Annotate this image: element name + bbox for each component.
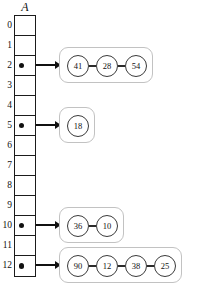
- array-index-label-2: 2: [0, 60, 12, 70]
- array-index-label-4: 4: [0, 100, 12, 110]
- arrow-shaft: [36, 264, 55, 266]
- chain-node[interactable]: 36: [67, 215, 89, 237]
- array-index-label-8: 8: [0, 180, 12, 190]
- array-index-label-0: 0: [0, 20, 12, 30]
- pointer-dot-2: [19, 63, 24, 68]
- arrow-shaft: [36, 124, 55, 126]
- array-cell-9[interactable]: [15, 196, 35, 216]
- array-index-label-1: 1: [0, 40, 12, 50]
- chain-node[interactable]: 12: [96, 255, 118, 277]
- chain-node[interactable]: 54: [125, 55, 147, 77]
- arrow-shaft: [36, 64, 55, 66]
- array-cell-8[interactable]: [15, 176, 35, 196]
- array-cell-6[interactable]: [15, 136, 35, 156]
- chain-node[interactable]: 25: [154, 255, 176, 277]
- array-column: [14, 15, 36, 277]
- array-index-label-5: 5: [0, 120, 12, 130]
- array-cell-1[interactable]: [15, 36, 35, 56]
- chain-node[interactable]: 10: [96, 215, 118, 237]
- chain-container-slot-2: 412854: [59, 47, 153, 83]
- chain-node[interactable]: 18: [67, 115, 89, 137]
- chain-link: [147, 265, 154, 267]
- array-cell-2[interactable]: [15, 56, 35, 76]
- array-cell-0[interactable]: [15, 16, 35, 36]
- pointer-arrow-12: [36, 261, 61, 269]
- array-cell-5[interactable]: [15, 116, 35, 136]
- array-cell-10[interactable]: [15, 216, 35, 236]
- pointer-arrow-2: [36, 61, 61, 69]
- chain-node[interactable]: 41: [67, 55, 89, 77]
- chain-container-slot-12: 90123825: [59, 247, 182, 283]
- array-index-label-12: 12: [0, 260, 12, 270]
- array-cell-7[interactable]: [15, 156, 35, 176]
- chain-container-slot-10: 3610: [59, 207, 124, 243]
- pointer-arrow-5: [36, 121, 61, 129]
- chain-link: [118, 65, 125, 67]
- chain-node[interactable]: 28: [96, 55, 118, 77]
- array-index-label-6: 6: [0, 140, 12, 150]
- array-index-label-7: 7: [0, 160, 12, 170]
- array-cell-3[interactable]: [15, 76, 35, 96]
- chain-node[interactable]: 90: [67, 255, 89, 277]
- chain-node[interactable]: 38: [125, 255, 147, 277]
- array-index-label-9: 9: [0, 200, 12, 210]
- array-index-label-11: 11: [0, 240, 12, 250]
- pointer-dot-10: [19, 223, 24, 228]
- chain-link: [89, 65, 96, 67]
- array-index-label-10: 10: [0, 220, 12, 230]
- chain-link: [89, 265, 96, 267]
- arrow-shaft: [36, 224, 55, 226]
- array-index-label-3: 3: [0, 80, 12, 90]
- array-name-label: A: [14, 0, 36, 14]
- chain-link: [118, 265, 125, 267]
- array-cell-4[interactable]: [15, 96, 35, 116]
- chain-link: [89, 225, 96, 227]
- hash-table-chaining-diagram: A 0123456789101112 41285418361090123825: [0, 0, 199, 290]
- array-cell-11[interactable]: [15, 236, 35, 256]
- chain-container-slot-5: 18: [59, 107, 95, 143]
- pointer-dot-12: [19, 263, 24, 268]
- pointer-arrow-10: [36, 221, 61, 229]
- pointer-dot-5: [19, 123, 24, 128]
- array-cell-12[interactable]: [15, 256, 35, 276]
